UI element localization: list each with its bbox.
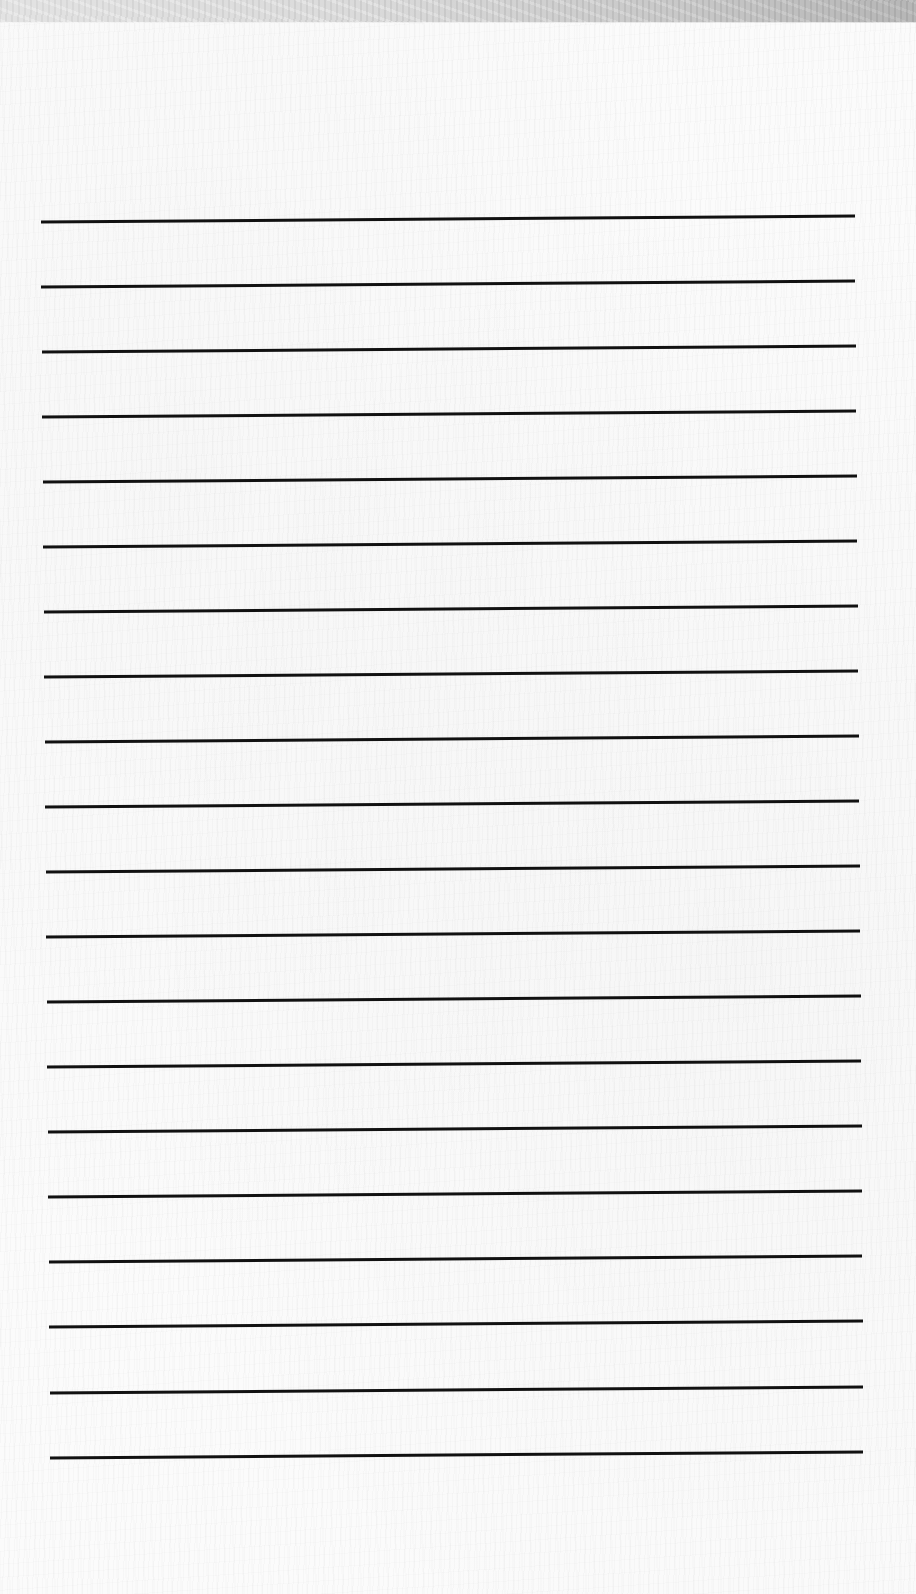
ruled-line (44, 671, 858, 677)
ruled-line (50, 1452, 863, 1458)
ruled-paper-page (0, 0, 916, 1594)
ruled-line (43, 476, 857, 482)
ruled-line (47, 1061, 861, 1067)
ruled-lines (0, 0, 916, 1594)
ruled-line (41, 281, 855, 287)
ruled-line (47, 996, 861, 1002)
ruled-line (48, 1191, 862, 1197)
ruled-line (45, 801, 859, 807)
ruled-line (45, 736, 859, 742)
ruled-line (50, 1387, 863, 1393)
ruled-line (46, 931, 860, 937)
ruled-line (41, 216, 855, 222)
ruled-line (48, 1126, 862, 1132)
ruled-line (49, 1256, 862, 1262)
ruled-line (49, 1321, 863, 1327)
ruled-line (43, 541, 857, 547)
ruled-line (42, 346, 856, 352)
ruled-line (42, 411, 856, 417)
ruled-line (46, 866, 860, 872)
ruled-line (44, 606, 858, 612)
